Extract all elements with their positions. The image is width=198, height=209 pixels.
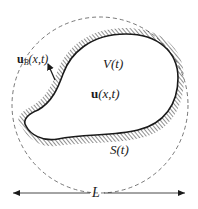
velocity-field-args: (x,t): [98, 86, 119, 101]
control-volume-diagram: uB(x,t) V(t) u(x,t) S(t) L: [0, 0, 198, 209]
length-scale-label: L: [92, 186, 100, 200]
boundary-velocity-symbol: u: [17, 52, 24, 66]
boundary-velocity-arrow: [48, 64, 55, 80]
velocity-field-label: u(x,t): [91, 87, 120, 100]
volume-label: V(t): [103, 57, 123, 70]
surface-label: S(t): [110, 143, 129, 156]
boundary-velocity-args: (x,t): [29, 52, 49, 66]
boundary-velocity-subscript: B: [24, 58, 29, 67]
boundary-velocity-label: uB(x,t): [17, 53, 48, 65]
